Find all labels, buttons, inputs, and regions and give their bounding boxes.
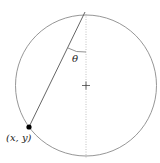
circle-diagram: θ (x, y) [0, 0, 160, 163]
point-marker [26, 124, 31, 129]
chord [29, 12, 85, 127]
angle-arc [68, 48, 86, 52]
theta-label: θ [72, 53, 78, 64]
point-label: (x, y) [6, 132, 32, 143]
